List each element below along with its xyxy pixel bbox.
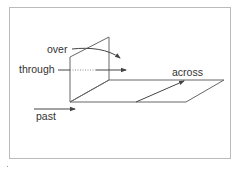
prepositions-diagram: over through across past [0, 0, 240, 169]
label-across: across [172, 66, 203, 78]
stray-dot [7, 166, 8, 167]
across-arrow [136, 81, 184, 102]
label-past: past [36, 110, 56, 122]
over-arrow [72, 48, 120, 58]
label-over: over [47, 43, 68, 55]
horizontal-plane [70, 80, 224, 102]
diagram-frame [10, 8, 231, 159]
label-through: through [19, 63, 55, 75]
